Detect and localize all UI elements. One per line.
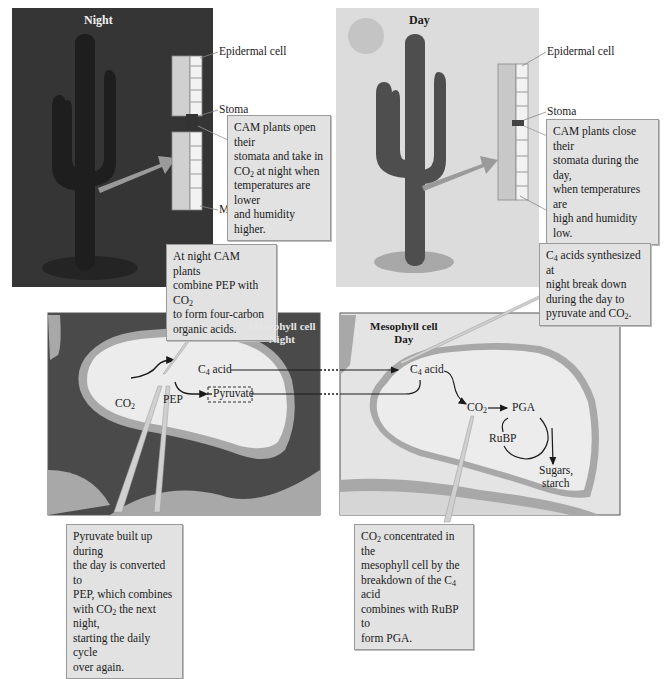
panel-title-line: Night bbox=[248, 333, 316, 346]
callout-line: combines with RuBP to bbox=[361, 602, 467, 631]
stoma-open-icon bbox=[186, 114, 198, 130]
mesophyll-night-title: Mesophyll cell Night bbox=[248, 320, 316, 346]
callout-line: form PGA. bbox=[361, 631, 467, 646]
node-c4-acid-day: C4 acid bbox=[410, 363, 444, 375]
node-sugars: Sugars, bbox=[539, 464, 573, 476]
panel-title-line: Mesophyll cell bbox=[370, 320, 438, 333]
callout-c4-breakdown: C4 acids synthesized at night break down… bbox=[539, 243, 651, 326]
callout-line: At night CAM plants bbox=[173, 249, 270, 278]
callout-line: and humidity higher. bbox=[234, 207, 324, 236]
day-scene bbox=[336, 8, 552, 287]
stoma-closed-icon bbox=[512, 120, 524, 126]
node-c4-acid-night: C4 acid bbox=[198, 363, 232, 375]
cell-strip-day bbox=[498, 64, 528, 200]
node-co2-night: CO2 bbox=[115, 397, 135, 409]
callout-line: starting the daily cycle bbox=[73, 631, 176, 660]
panel-title-line: Day bbox=[370, 333, 438, 346]
callout-line: breakdown of the C4 acid bbox=[361, 573, 467, 602]
callout-stomata-closed: CAM plants close their stomata during th… bbox=[546, 119, 659, 245]
callout-line: stomata and take in bbox=[234, 149, 324, 164]
callout-line: CAM plants open their bbox=[234, 120, 324, 149]
node-starch: starch bbox=[542, 477, 569, 489]
node-pga: PGA bbox=[512, 401, 535, 413]
callout-line: over again. bbox=[73, 660, 176, 675]
callout-line: CAM plants close their bbox=[553, 124, 652, 153]
day-title: Day bbox=[409, 14, 430, 27]
callout-line: CO2 concentrated in the bbox=[361, 529, 467, 558]
node-rubp: RuBP bbox=[489, 432, 517, 444]
callout-line: Pyruvate built up during bbox=[73, 529, 176, 558]
stoma-label-night: Stoma bbox=[219, 103, 248, 115]
mesophyll-day-title: Mesophyll cell Day bbox=[370, 320, 438, 346]
callout-line: with CO2 the next night, bbox=[73, 602, 176, 631]
callout-line: PEP, which combines bbox=[73, 587, 176, 602]
callout-line: temperatures are lower bbox=[234, 178, 324, 207]
callout-stomata-open: CAM plants open their stomata and take i… bbox=[227, 115, 331, 241]
callout-line: C4 acids synthesized at bbox=[546, 248, 644, 277]
callout-line: during the day to bbox=[546, 292, 644, 307]
sun-icon bbox=[348, 18, 384, 54]
node-pep: PEP bbox=[163, 393, 183, 405]
callout-co2-rubp: CO2 concentrated in the mesophyll cell b… bbox=[354, 524, 474, 650]
callout-line: the day is converted to bbox=[73, 558, 176, 587]
panel-title-line: Mesophyll cell bbox=[248, 320, 316, 333]
stoma-label-day: Stoma bbox=[547, 105, 576, 117]
callout-line: pyruvate and CO2. bbox=[546, 306, 644, 321]
epidermal-cell-label-day: Epidermal cell bbox=[547, 45, 614, 57]
night-title: Night bbox=[84, 14, 113, 27]
callout-line: stomata during the day, bbox=[553, 153, 652, 182]
callout-line: night break down bbox=[546, 277, 644, 292]
cell-strip-night bbox=[172, 56, 202, 210]
callout-pyruvate-recycled: Pyruvate built up during the day is conv… bbox=[66, 524, 183, 679]
callout-line: mesophyll cell by the bbox=[361, 558, 467, 573]
node-co2-day: CO2 bbox=[467, 401, 487, 413]
callout-line: when temperatures are bbox=[553, 182, 652, 211]
callout-line: combine PEP with CO2 bbox=[173, 278, 270, 307]
node-pyruvate: Pyruvate bbox=[213, 387, 254, 399]
epidermal-cell-label-night: Epidermal cell bbox=[219, 45, 286, 57]
callout-line: high and humidity low. bbox=[553, 211, 652, 240]
callout-line: CO2 at night when bbox=[234, 164, 324, 179]
